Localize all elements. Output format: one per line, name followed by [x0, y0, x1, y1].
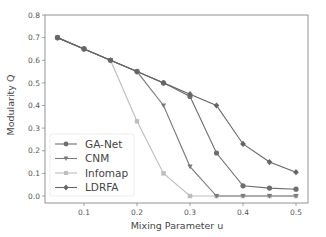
- legend-label: GA-Net: [85, 138, 122, 150]
- y-tick-label: 0.3: [28, 124, 40, 133]
- circle-marker: [64, 142, 69, 147]
- y-tick-label: 0.4: [28, 101, 40, 110]
- triangle-marker: [161, 103, 166, 108]
- legend-label: Infomap: [85, 167, 129, 179]
- square-marker: [161, 171, 165, 175]
- y-tick-label: 0.1: [28, 169, 40, 178]
- diamond-marker: [161, 80, 167, 86]
- square-marker: [64, 171, 68, 175]
- diamond-marker: [267, 159, 273, 165]
- square-marker: [135, 119, 139, 123]
- circle-marker: [293, 187, 298, 192]
- y-tick-label: 0.2: [28, 146, 40, 155]
- y-tick-label: 0.6: [28, 56, 40, 65]
- x-tick-label: 0.3: [184, 208, 196, 217]
- legend-label: LDRFA: [85, 181, 119, 193]
- legend-label: CNM: [85, 152, 109, 164]
- y-tick-label: 0.7: [28, 33, 40, 42]
- x-axis-label: Mixing Parameter u: [131, 220, 224, 231]
- square-marker: [188, 194, 192, 198]
- line-chart: 0.10.20.30.40.50.00.10.20.30.40.50.60.70…: [0, 0, 326, 237]
- y-axis-label: Modularity Q: [5, 75, 16, 136]
- y-tick-label: 0.0: [28, 192, 40, 201]
- x-tick-label: 0.4: [237, 208, 249, 217]
- circle-marker: [267, 185, 272, 190]
- x-tick-label: 0.2: [131, 208, 143, 217]
- x-tick-label: 0.1: [78, 208, 90, 217]
- y-tick-label: 0.5: [28, 79, 40, 88]
- x-tick-label: 0.5: [290, 208, 302, 217]
- circle-marker: [214, 150, 219, 155]
- circle-marker: [240, 183, 245, 188]
- legend: GA-NetCNMInfomapLDRFA: [50, 134, 134, 196]
- y-tick-label: 0.8: [28, 11, 40, 20]
- diamond-marker: [293, 169, 299, 175]
